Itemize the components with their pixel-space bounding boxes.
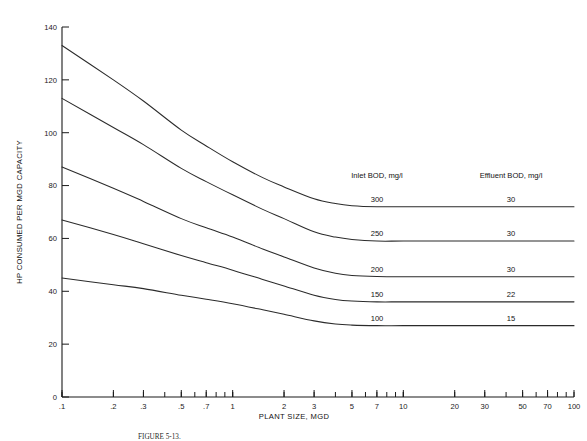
figure-caption: FIGURE 5-13. bbox=[138, 433, 181, 441]
inlet-bod-label: 150 bbox=[371, 290, 384, 299]
effluent-bod-label: 22 bbox=[507, 290, 515, 299]
x-tick-label: 5 bbox=[350, 402, 354, 411]
series-curve bbox=[62, 46, 574, 207]
y-axis-tick-labels: 020406080100120140 bbox=[44, 23, 57, 402]
x-tick-label: 3 bbox=[312, 402, 316, 411]
effluent-bod-label: 15 bbox=[507, 314, 515, 323]
legend-header-effluent: Effluent BOD, mg/l bbox=[480, 171, 543, 180]
x-tick-label: 70 bbox=[543, 402, 551, 411]
x-tick-label: 30 bbox=[481, 402, 489, 411]
data-curves bbox=[62, 46, 574, 326]
x-tick-label: 1 bbox=[231, 402, 235, 411]
x-tick-label: .5 bbox=[178, 402, 184, 411]
inlet-bod-label: 300 bbox=[371, 195, 384, 204]
x-tick-label: .1 bbox=[59, 402, 65, 411]
x-tick-label: .2 bbox=[110, 402, 116, 411]
inline-series-labels: 3003025030200301502210015 bbox=[371, 195, 516, 323]
line-chart: 020406080100120140 .1.2.3.5.712357102030… bbox=[0, 0, 587, 441]
y-tick-label: 40 bbox=[49, 287, 57, 296]
x-tick-label: 100 bbox=[568, 402, 581, 411]
series-curve bbox=[62, 167, 574, 277]
y-tick-label: 20 bbox=[49, 340, 57, 349]
x-axis-tick-labels: .1.2.3.5.7123571020305070100 bbox=[59, 402, 581, 411]
effluent-bod-label: 30 bbox=[507, 229, 515, 238]
y-axis-title: HP CONSUMED PER MGD CAPACITY bbox=[15, 140, 24, 284]
effluent-bod-label: 30 bbox=[507, 265, 515, 274]
inlet-bod-label: 100 bbox=[371, 314, 384, 323]
legend-header-inlet: Inlet BOD, mg/l bbox=[351, 171, 403, 180]
inlet-bod-label: 200 bbox=[371, 265, 384, 274]
x-axis-title: PLANT SIZE, MGD bbox=[259, 412, 330, 421]
series-curve bbox=[62, 220, 574, 302]
axes bbox=[62, 27, 574, 397]
x-tick-label: 10 bbox=[399, 402, 407, 411]
x-tick-label: 2 bbox=[282, 402, 286, 411]
effluent-bod-label: 30 bbox=[507, 195, 515, 204]
y-tick-label: 140 bbox=[44, 23, 57, 32]
y-tick-label: 0 bbox=[53, 393, 57, 402]
figure-page: 020406080100120140 .1.2.3.5.712357102030… bbox=[0, 0, 587, 441]
y-tick-label: 80 bbox=[49, 181, 57, 190]
x-tick-label: .7 bbox=[203, 402, 209, 411]
x-tick-label: 50 bbox=[518, 402, 526, 411]
y-tick-label: 120 bbox=[44, 76, 57, 85]
x-axis-ticks bbox=[62, 390, 574, 397]
y-tick-label: 60 bbox=[49, 234, 57, 243]
x-tick-label: .3 bbox=[140, 402, 146, 411]
y-tick-label: 100 bbox=[44, 129, 57, 138]
inlet-bod-label: 250 bbox=[371, 229, 384, 238]
x-tick-label: 7 bbox=[375, 402, 379, 411]
x-tick-label: 20 bbox=[450, 402, 458, 411]
series-curve bbox=[62, 98, 574, 241]
y-axis-ticks bbox=[62, 27, 69, 397]
